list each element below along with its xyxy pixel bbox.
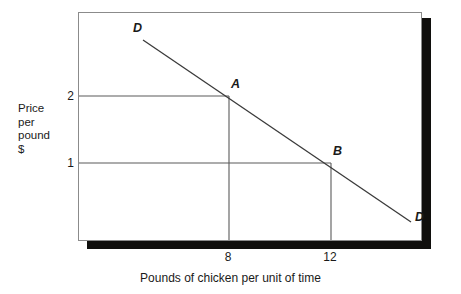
y-axis-title-line-2: per bbox=[18, 116, 76, 130]
x-tick-label-8: 8 bbox=[213, 250, 243, 264]
y-axis-title-line-3: pound bbox=[18, 129, 76, 143]
y-tick-label-2: 2 bbox=[58, 89, 74, 103]
data-point-label-a: A bbox=[231, 77, 240, 91]
y-axis-title-line-1: Price bbox=[18, 102, 76, 116]
demand-curve-label-top: D bbox=[133, 21, 142, 35]
data-point-label-b: B bbox=[333, 144, 342, 158]
demand-curve-line bbox=[143, 40, 411, 222]
demand-curve-label-bottom: D bbox=[415, 210, 424, 224]
x-tick-label-12: 12 bbox=[315, 250, 345, 264]
y-axis-title-line-4: $ bbox=[18, 143, 76, 157]
x-axis-title: Pounds of chicken per unit of time bbox=[0, 271, 461, 285]
y-tick-label-1: 1 bbox=[58, 156, 74, 170]
demand-curve-figure: Price per pound $ 2 1 8 12 Pounds of chi… bbox=[0, 0, 461, 294]
y-axis-title: Price per pound $ bbox=[18, 102, 76, 156]
